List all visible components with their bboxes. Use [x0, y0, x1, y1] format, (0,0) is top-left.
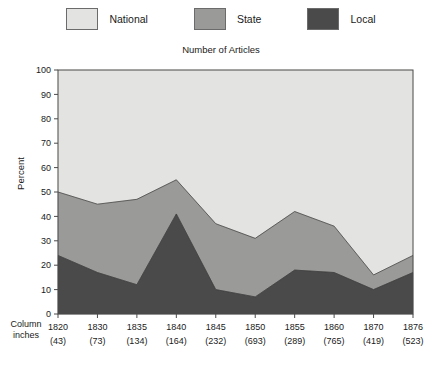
- stacked-area-chart: 01020304050607080901001820(43)1830(73)18…: [0, 0, 442, 369]
- x-tick-label: 1876: [403, 322, 423, 332]
- x-tick-label: 1830: [87, 322, 107, 332]
- y-axis-title: Percent: [15, 144, 26, 204]
- column-inches-value: (134): [126, 336, 147, 346]
- column-inches-value: (419): [363, 336, 384, 346]
- x-tick-label: 1860: [324, 322, 344, 332]
- y-tick-label: 70: [41, 138, 51, 148]
- x-tick-label: 1845: [206, 322, 226, 332]
- column-inches-value: (693): [245, 336, 266, 346]
- column-inches-value: (523): [402, 336, 423, 346]
- column-inches-value: (765): [324, 336, 345, 346]
- column-inches-label-line2: inches: [2, 330, 50, 341]
- chart-plot-area: 01020304050607080901001820(43)1830(73)18…: [0, 0, 442, 369]
- y-tick-label: 10: [41, 285, 51, 295]
- column-inches-value: (289): [284, 336, 305, 346]
- x-tick-label: 1835: [127, 322, 147, 332]
- y-tick-label: 40: [41, 212, 51, 222]
- y-tick-label: 50: [41, 187, 51, 197]
- area-series-group: [58, 70, 413, 314]
- y-tick-label: 20: [41, 260, 51, 270]
- column-inches-value: (164): [166, 336, 187, 346]
- y-tick-label: 100: [36, 65, 51, 75]
- y-tick-label: 0: [46, 309, 51, 319]
- column-inches-value: (232): [205, 336, 226, 346]
- x-tick-label: 1840: [166, 322, 186, 332]
- column-inches-value: (43): [50, 336, 66, 346]
- y-tick-label: 80: [41, 114, 51, 124]
- x-tick-label: 1820: [48, 322, 68, 332]
- y-tick-label: 30: [41, 236, 51, 246]
- column-inches-row-label: Column inches: [2, 319, 50, 341]
- column-inches-label-line1: Column: [2, 319, 50, 330]
- x-tick-label: 1870: [364, 322, 384, 332]
- x-tick-label: 1855: [285, 322, 305, 332]
- x-tick-label: 1850: [245, 322, 265, 332]
- y-tick-label: 60: [41, 163, 51, 173]
- y-tick-label: 90: [41, 90, 51, 100]
- column-inches-value: (73): [89, 336, 105, 346]
